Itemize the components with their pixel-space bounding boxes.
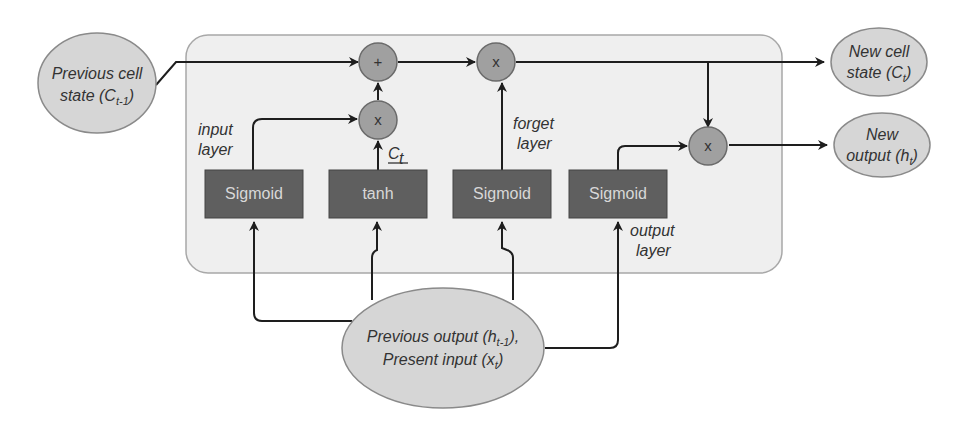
input-layer-label-line1: input [198,121,233,138]
new-output-node: New output (ht) [834,113,930,177]
forget-layer-label-line1: forget [513,115,554,132]
new-cell-state-node: New cell state (Ct) [831,28,927,96]
multiply-symbol: x [704,137,712,154]
gate-function-label: Sigmoid [589,185,647,202]
lstm-diagram: + x x x Sigmoid tanh Sigmoid Sigmoid inp… [0,0,978,436]
forget-gate-box: Sigmoid [453,170,551,218]
node-label-line1: Previous cell [52,65,143,82]
candidate-subscript: t [399,150,404,167]
forget-multiply-operator: x [477,43,515,81]
add-operator: + [359,43,397,81]
input-gate-box: Sigmoid [205,170,303,218]
output-layer-label-line2: layer [636,242,671,259]
gate-function-label: Sigmoid [473,185,531,202]
add-symbol: + [374,53,383,70]
multiply-symbol: x [492,53,500,70]
forget-layer-label-line2: layer [517,135,552,152]
input-multiply-operator: x [359,101,397,139]
candidate-gate-box: tanh [329,170,427,218]
previous-cell-state-node: Previous cell state (Ct-1) [38,33,156,133]
gate-function-label: Sigmoid [225,185,283,202]
output-gate-box: Sigmoid [569,170,667,218]
previous-output-present-input-node: Previous output (ht-1), Present input (x… [342,288,544,408]
input-layer-label-line2: layer [198,141,233,158]
output-multiply-operator: x [689,127,727,165]
multiply-symbol: x [374,111,382,128]
gate-function-label: tanh [362,185,393,202]
output-layer-label-line1: output [630,222,675,239]
node-label-line1: New [866,126,899,143]
node-label-line1: New cell [849,43,910,60]
